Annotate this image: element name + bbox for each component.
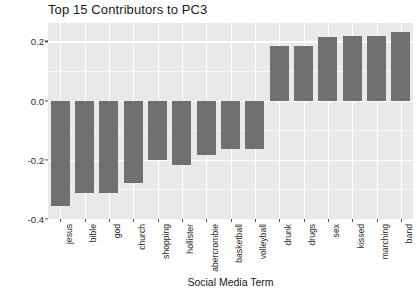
y-axis-ticks: 0.20.0-0.2-0.4 [0, 23, 48, 219]
bar[interactable] [270, 46, 289, 101]
x-tick-label: basketball [234, 224, 244, 263]
x-tick-label: bible [88, 224, 98, 242]
bar[interactable] [197, 101, 216, 155]
x-tick-label: church [137, 224, 147, 250]
bar[interactable] [148, 101, 167, 160]
x-tick-mark [206, 219, 207, 222]
x-tick-label: volleyball [258, 224, 268, 259]
x-tick-mark [158, 219, 159, 222]
x-tick-label: hollister [185, 224, 195, 254]
x-tick-mark [304, 219, 305, 222]
y-tick-label: 0.2 [31, 36, 44, 47]
bar[interactable] [221, 101, 240, 150]
y-tick-label: -0.2 [28, 154, 44, 165]
y-tick-label: -0.4 [28, 214, 44, 225]
bar[interactable] [124, 101, 143, 184]
x-tick-mark [279, 219, 280, 222]
x-tick-mark [352, 219, 353, 222]
bar[interactable] [75, 101, 94, 194]
bar[interactable] [172, 101, 191, 165]
x-tick-label: jesus [64, 224, 74, 244]
x-tick-mark [182, 219, 183, 222]
x-tick-mark [377, 219, 378, 222]
x-tick-label: god [112, 224, 122, 238]
x-tick-mark [109, 219, 110, 222]
x-axis-label: Social Media Term [48, 276, 413, 288]
x-tick-mark [255, 219, 256, 222]
x-tick-label: drunk [283, 224, 293, 246]
bar[interactable] [391, 32, 410, 100]
chart-figure: Top 15 Contributors to PC3 Relative Impo… [0, 0, 419, 303]
x-axis-ticks: jesusbiblegodchurchshoppinghollisteraber… [48, 219, 413, 277]
x-tick-mark [401, 219, 402, 222]
bar[interactable] [51, 101, 70, 206]
bar[interactable] [318, 37, 337, 100]
x-tick-label: kissed [356, 224, 366, 248]
bar-series [48, 23, 413, 219]
bar[interactable] [367, 36, 386, 100]
x-tick-label: shopping [161, 224, 171, 259]
chart-title: Top 15 Contributors to PC3 [48, 2, 207, 17]
bar[interactable] [294, 46, 313, 101]
bar[interactable] [343, 36, 362, 100]
bar[interactable] [99, 101, 118, 194]
x-tick-mark [60, 219, 61, 222]
x-tick-mark [133, 219, 134, 222]
x-tick-mark [231, 219, 232, 222]
plot-panel [48, 23, 413, 219]
x-tick-label: sex [331, 224, 341, 237]
x-tick-label: drugs [307, 224, 317, 246]
y-tick-label: 0.0 [31, 95, 44, 106]
x-tick-mark [328, 219, 329, 222]
x-tick-mark [85, 219, 86, 222]
bar[interactable] [245, 101, 264, 150]
x-tick-label: abercrombie [210, 224, 220, 272]
x-tick-label: band [404, 224, 414, 243]
x-tick-label: marching [380, 224, 390, 259]
